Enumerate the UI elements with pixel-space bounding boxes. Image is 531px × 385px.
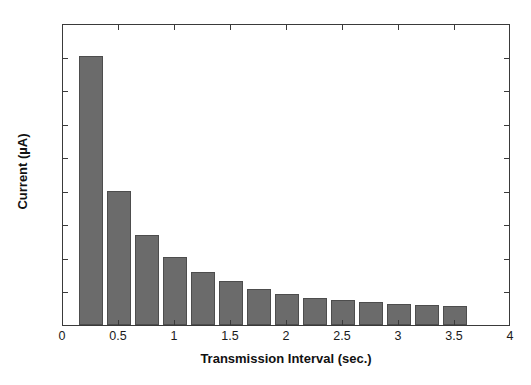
x-tick-label: 0.5: [109, 330, 126, 343]
y-axis-title: Current (µA): [16, 92, 29, 252]
bar: [415, 305, 440, 325]
x-axis-title: Transmission Interval (sec.): [62, 352, 510, 365]
bar: [135, 235, 160, 325]
x-tick-mark: [398, 320, 399, 326]
y-tick-mark-right: [504, 259, 510, 260]
x-tick-mark: [118, 320, 119, 326]
x-tick-mark-top: [230, 24, 231, 30]
plot-area: [62, 24, 510, 326]
y-tick-mark: [62, 225, 68, 226]
y-tick-mark-right: [504, 91, 510, 92]
y-tick-mark: [62, 192, 68, 193]
bar: [107, 191, 132, 325]
y-tick-mark: [62, 292, 68, 293]
bar: [219, 281, 244, 325]
bar: [247, 289, 272, 325]
x-tick-label: 3.5: [445, 330, 462, 343]
bar: [163, 257, 188, 325]
x-tick-label: 0: [59, 330, 66, 343]
bar: [359, 302, 384, 325]
y-tick-mark: [62, 158, 68, 159]
y-tick-mark-right: [504, 192, 510, 193]
y-tick-mark-right: [504, 125, 510, 126]
x-tick-mark-top: [454, 24, 455, 30]
x-tick-label: 2.5: [333, 330, 350, 343]
x-tick-label: 3: [395, 330, 402, 343]
bar: [303, 298, 328, 326]
x-tick-mark-top: [118, 24, 119, 30]
y-tick-mark: [62, 58, 68, 59]
y-tick-mark: [62, 125, 68, 126]
x-tick-mark-top: [342, 24, 343, 30]
x-tick-mark: [342, 320, 343, 326]
y-tick-mark: [62, 91, 68, 92]
x-tick-mark-top: [286, 24, 287, 30]
x-tick-mark-top: [174, 24, 175, 30]
x-tick-mark: [286, 320, 287, 326]
x-tick-label: 1.5: [221, 330, 238, 343]
y-tick-mark-right: [504, 158, 510, 159]
y-tick-mark: [62, 259, 68, 260]
bars-layer: [63, 25, 509, 325]
x-tick-mark: [454, 320, 455, 326]
x-tick-label: 4: [507, 330, 514, 343]
bar: [79, 56, 104, 325]
y-tick-mark-right: [504, 58, 510, 59]
x-tick-mark-top: [398, 24, 399, 30]
bar: [191, 272, 216, 325]
x-tick-label: 1: [171, 330, 178, 343]
y-tick-mark-right: [504, 225, 510, 226]
bar-chart-figure: 050100150200250300350400450 00.511.522.5…: [0, 0, 531, 385]
x-tick-mark: [174, 320, 175, 326]
x-tick-label: 2: [283, 330, 290, 343]
y-tick-mark-right: [504, 292, 510, 293]
x-tick-mark: [230, 320, 231, 326]
